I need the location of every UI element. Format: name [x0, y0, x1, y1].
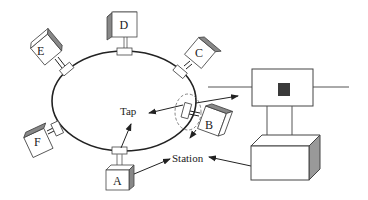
arrow-a-to-tap — [121, 124, 131, 148]
arrow-to-detail-tap — [196, 96, 238, 103]
detail-station — [251, 135, 320, 180]
station-d-label: D — [120, 18, 129, 32]
arrow-a-to-station-label — [134, 159, 170, 174]
tap-a — [112, 147, 127, 154]
station-b-label: B — [205, 118, 213, 132]
station-a: A — [106, 147, 134, 190]
tap-d — [117, 48, 132, 55]
tap-e — [59, 62, 73, 76]
station-label: Station — [172, 152, 204, 164]
station-c-label: C — [195, 46, 203, 60]
tap-core — [278, 83, 290, 96]
station-d: D — [107, 12, 137, 55]
tap-f — [51, 121, 64, 136]
arrow-b-to-station-label — [190, 130, 196, 138]
detail-tap — [208, 69, 349, 140]
tap-c — [173, 65, 187, 79]
station-e-label: E — [37, 44, 44, 58]
arrow-detail-station-to-label — [209, 157, 251, 166]
tap-label: Tap — [120, 105, 137, 117]
ring-network-diagram: D E C F A B — [0, 0, 368, 200]
station-e — [28, 28, 65, 65]
ring — [52, 51, 196, 151]
station-a-label: A — [113, 174, 122, 188]
arrow-b-to-tap-label — [149, 105, 183, 113]
station-b — [198, 102, 233, 138]
station-f-label: F — [34, 135, 41, 149]
